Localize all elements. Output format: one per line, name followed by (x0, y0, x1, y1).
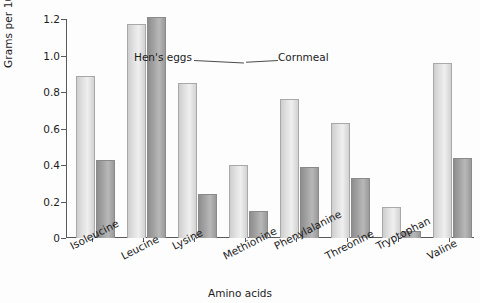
bar-phenylalanine-hens-eggs (280, 99, 299, 238)
bar-group (76, 19, 116, 238)
y-axis-tick-labels: 1.21.00.80.60.40.20 (28, 0, 60, 303)
bar-chart: Grams per 100 grams 1.21.00.80.60.40.20 … (0, 0, 480, 303)
bar-group (382, 19, 422, 238)
bar-group (229, 19, 269, 238)
bar-isoleucine-hens-eggs (76, 76, 95, 238)
y-tick-label: 0.8 (30, 87, 60, 97)
bar-valine-cornmeal (453, 158, 472, 238)
y-tick-label: 0.6 (30, 124, 60, 134)
bar-lysine-hens-eggs (178, 83, 197, 238)
y-tick-mark (61, 19, 66, 20)
y-tick-label: 0 (30, 233, 60, 243)
bar-group (331, 19, 371, 238)
x-axis-title: Amino acids (0, 287, 480, 299)
y-tick-mark (61, 165, 66, 166)
y-tick-mark (61, 129, 66, 130)
x-axis-tick-labels: IsoleucineLeucineLysineMethioninePhenyla… (66, 239, 474, 289)
y-tick-label: 1.0 (30, 51, 60, 61)
y-tick-mark (61, 56, 66, 57)
y-tick-label: 1.2 (30, 14, 60, 24)
bar-group (433, 19, 473, 238)
plot-area: Hen's eggs Cornmeal (66, 19, 474, 238)
x-tick-label: Valine (425, 237, 459, 262)
y-tick-mark (61, 92, 66, 93)
annotation-hens-eggs: Hen's eggs (134, 51, 192, 63)
y-axis-title: Grams per 100 grams (2, 0, 14, 68)
annotation-cornmeal: Cornmeal (278, 51, 329, 63)
bar-valine-hens-eggs (433, 63, 452, 238)
y-tick-label: 0.4 (30, 160, 60, 170)
y-axis-line (66, 19, 67, 238)
bar-methionine-hens-eggs (229, 165, 248, 238)
y-tick-mark (61, 202, 66, 203)
y-tick-label: 0.2 (30, 197, 60, 207)
